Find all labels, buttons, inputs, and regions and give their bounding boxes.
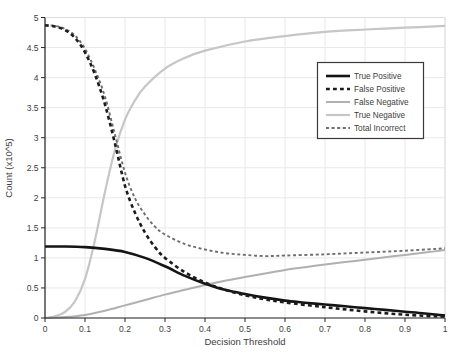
- y-tick-label: 2.5: [27, 163, 39, 173]
- y-tick-label: 2: [34, 193, 39, 203]
- y-tick-label: 4.5: [27, 43, 39, 53]
- figure: 00.10.20.30.40.50.60.70.80.9100.511.522.…: [0, 0, 453, 359]
- y-tick-label: 1.5: [27, 223, 39, 233]
- x-tick-label: 0.9: [399, 324, 411, 334]
- x-tick-label: 0.1: [79, 324, 91, 334]
- x-tick-label: 0.2: [119, 324, 131, 334]
- y-tick-label: 0: [34, 313, 39, 323]
- x-axis-label: Decision Threshold: [204, 336, 285, 347]
- x-tick-label: 0.7: [319, 324, 331, 334]
- legend-entry-label: Total Incorrect: [354, 124, 406, 133]
- y-tick-label: 4: [34, 73, 39, 83]
- y-tick-label: 3: [34, 133, 39, 143]
- x-tick-label: 0.8: [359, 324, 371, 334]
- x-tick-label: 0.5: [239, 324, 251, 334]
- legend-entry-label: True Positive: [354, 72, 402, 81]
- legend: True PositiveFalse PositiveFalse Negativ…: [318, 63, 424, 139]
- x-tick-label: 1: [443, 324, 448, 334]
- legend-entry-label: False Positive: [354, 85, 405, 94]
- y-tick-label: 3.5: [27, 103, 39, 113]
- y-tick-label: 1: [34, 253, 39, 263]
- y-axis-label: Count (x10^5): [3, 138, 14, 197]
- y-tick-label: 0.5: [27, 283, 39, 293]
- x-tick-label: 0.3: [159, 324, 171, 334]
- x-tick-label: 0.6: [279, 324, 291, 334]
- tick-layer: 00.10.20.30.40.50.60.70.80.9100.511.522.…: [27, 13, 448, 334]
- line-chart: 00.10.20.30.40.50.60.70.80.9100.511.522.…: [0, 0, 453, 359]
- x-tick-label: 0: [43, 324, 48, 334]
- legend-entry-label: True Negative: [354, 111, 406, 120]
- legend-entry-label: False Negative: [354, 98, 409, 107]
- y-tick-label: 5: [34, 13, 39, 23]
- x-tick-label: 0.4: [199, 324, 211, 334]
